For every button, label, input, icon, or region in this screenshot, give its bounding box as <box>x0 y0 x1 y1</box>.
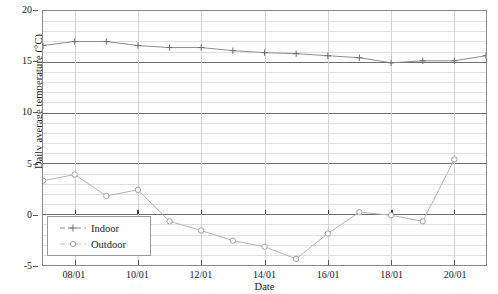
y-tick-label: 0 <box>2 210 32 220</box>
y-tick-mark <box>33 266 38 267</box>
legend-label-outdoor: Outdoor <box>91 239 126 250</box>
x-axis-title: Date <box>42 281 487 292</box>
x-tick-label: 08/01 <box>62 269 85 280</box>
y-tick-mark <box>33 164 38 165</box>
x-tick-label: 16/01 <box>317 269 340 280</box>
x-tick-label: 12/01 <box>190 269 213 280</box>
x-tick-label: 14/01 <box>253 269 276 280</box>
x-tick-label: 10/01 <box>126 269 149 280</box>
y-tick-label: -5 <box>2 261 32 271</box>
y-tick-label: 10 <box>2 107 32 117</box>
legend-item-outdoor: Outdoor <box>48 236 150 252</box>
y-tick-label: 20 <box>2 5 32 15</box>
legend-label-indoor: Indoor <box>91 223 119 234</box>
y-tick-mark <box>33 215 38 216</box>
x-tick-label: 18/01 <box>380 269 403 280</box>
y-tick-mark <box>33 61 38 62</box>
temperature-line-chart: Daily average temperature (°C) 20151050-… <box>0 0 498 294</box>
y-tick-label: 5 <box>2 159 32 169</box>
y-axis-tick-labels: 20151050-5 <box>0 10 38 266</box>
x-tick-label: 20/01 <box>444 269 467 280</box>
y-tick-mark <box>33 112 38 113</box>
y-tick-mark <box>33 10 38 11</box>
chart-legend: Indoor Outdoor <box>47 216 151 256</box>
circle-marker-icon <box>60 239 86 249</box>
y-tick-label: 15 <box>2 56 32 66</box>
plus-marker-icon <box>60 223 86 233</box>
legend-item-indoor: Indoor <box>48 220 150 236</box>
